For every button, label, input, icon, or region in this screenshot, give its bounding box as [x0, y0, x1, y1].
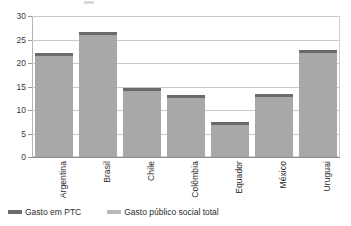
y-tick-label: 10	[0, 106, 26, 115]
category-label: Argentina	[58, 161, 68, 198]
bar-ptc-cap	[167, 95, 205, 98]
bar-ptc-cap	[35, 53, 73, 56]
y-tick-label: 30	[0, 12, 26, 21]
bar-ptc-cap	[211, 122, 249, 125]
legend-label-gasto-em-ptc: Gasto em PTC	[25, 207, 81, 217]
bar-group	[35, 16, 73, 157]
category-label: Colômbia	[190, 161, 200, 198]
category-label: Chile	[146, 161, 156, 181]
y-tick-label: 15	[0, 82, 26, 91]
bar-group	[79, 16, 117, 157]
bar-group	[123, 16, 161, 157]
category-label: México	[278, 161, 288, 189]
category-label: Uruguai	[322, 161, 332, 191]
bar-total	[123, 88, 161, 157]
bar-chart: 051015202530 ArgentinaBrasilChileColômbi…	[0, 0, 351, 198]
bar-ptc-cap	[79, 32, 117, 35]
bar-total	[255, 94, 293, 157]
x-axis-baseline	[32, 157, 340, 158]
legend-label-gasto-publico-social-total: Gasto público social total	[124, 207, 219, 217]
bar-total	[299, 50, 337, 157]
category-label: Equador	[234, 161, 244, 194]
y-tick-mark	[28, 157, 32, 158]
dark-swatch-icon	[8, 210, 22, 214]
bar-group	[299, 16, 337, 157]
bar-total	[211, 122, 249, 157]
bar-total	[167, 95, 205, 157]
bar-ptc-cap	[123, 88, 161, 91]
bar-total	[35, 53, 73, 157]
bar-total	[79, 32, 117, 157]
bar-ptc-cap	[299, 50, 337, 53]
y-tick-label: 20	[0, 59, 26, 68]
chart-legend: Gasto em PTC Gasto público social total	[8, 205, 351, 219]
category-label: Brasil	[102, 161, 112, 183]
y-axis-tick-labels: 051015202530	[0, 0, 28, 198]
bar-group	[211, 16, 249, 157]
bar-ptc-cap	[255, 94, 293, 97]
bar-group	[167, 16, 205, 157]
y-tick-label: 25	[0, 35, 26, 44]
legend-item-gasto-em-ptc: Gasto em PTC	[8, 207, 81, 217]
legend-item-gasto-publico-social-total: Gasto público social total	[107, 207, 219, 217]
y-tick-label: 5	[0, 129, 26, 138]
bar-group	[255, 16, 293, 157]
y-tick-label: 0	[0, 153, 26, 162]
light-swatch-icon	[107, 210, 121, 214]
